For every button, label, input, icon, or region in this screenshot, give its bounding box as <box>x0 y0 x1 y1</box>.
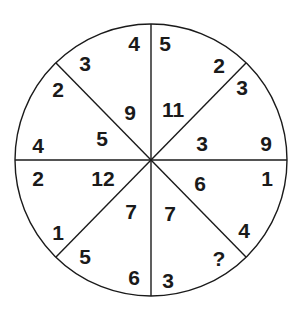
segment-number: 2 <box>213 54 225 77</box>
segment-number: 9 <box>124 101 136 124</box>
segment-number: 12 <box>91 167 114 190</box>
segment-number: 3 <box>162 269 174 292</box>
segment-number: 1 <box>52 221 64 244</box>
segment-number: 2 <box>52 78 64 101</box>
segment-number: 9 <box>260 132 272 155</box>
segment-number: 3 <box>236 76 248 99</box>
segment-number: 5 <box>159 32 171 55</box>
segment-number: 5 <box>96 127 108 150</box>
circle-puzzle-diagram: 432954523113921271566174?3 <box>0 0 300 320</box>
segment-number: 5 <box>79 245 91 268</box>
segment-number: 4 <box>238 219 250 242</box>
segment-number: 1 <box>261 167 273 190</box>
segment-number: 3 <box>196 132 208 155</box>
segment-number: 11 <box>162 98 185 121</box>
segment-number: 3 <box>79 52 91 75</box>
segment-number: 2 <box>32 167 44 190</box>
segment-number: 7 <box>125 200 137 223</box>
segment-number: 6 <box>128 266 140 289</box>
unknown-number: ? <box>213 247 226 270</box>
segment-number: 4 <box>128 32 140 55</box>
segment-number: 6 <box>194 172 206 195</box>
segment-number: 4 <box>32 134 44 157</box>
segment-number: 7 <box>164 202 176 225</box>
